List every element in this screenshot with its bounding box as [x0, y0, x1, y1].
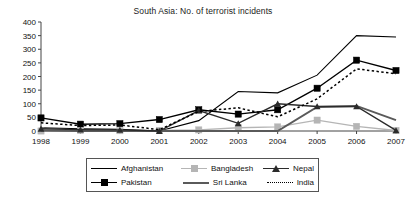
- legend-key-pakistan-icon: [91, 177, 117, 188]
- series-layer: [38, 36, 400, 134]
- svg-text:2003: 2003: [229, 137, 247, 146]
- legend-label-nepal: Nepal: [293, 164, 314, 173]
- legend-label-sri-lanka: Sri Lanka: [213, 178, 247, 187]
- legend-label-pakistan: Pakistan: [121, 178, 152, 187]
- legend-key-india-icon: [267, 177, 293, 188]
- svg-text:1999: 1999: [72, 137, 90, 146]
- legend-item-afghanistan: Afghanistan: [91, 163, 181, 174]
- legend-key-bangladesh-icon: [181, 163, 207, 174]
- svg-text:1998: 1998: [32, 137, 50, 146]
- svg-text:2001: 2001: [150, 137, 168, 146]
- svg-text:2005: 2005: [308, 137, 326, 146]
- legend-item-sri-lanka: Sri Lanka: [183, 177, 267, 188]
- legend-item-bangladesh: Bangladesh: [181, 163, 263, 174]
- legend-label-afghanistan: Afghanistan: [121, 164, 163, 173]
- svg-text:2006: 2006: [348, 137, 366, 146]
- svg-text:2002: 2002: [190, 137, 208, 146]
- svg-text:200: 200: [23, 73, 37, 82]
- svg-text:250: 250: [23, 59, 37, 68]
- svg-text:300: 300: [23, 45, 37, 54]
- svg-text:2000: 2000: [111, 137, 129, 146]
- legend-item-nepal: Nepal: [263, 163, 314, 174]
- svg-text:2004: 2004: [269, 137, 287, 146]
- svg-text:400: 400: [23, 18, 37, 27]
- svg-text:2007: 2007: [387, 137, 405, 146]
- svg-text:100: 100: [23, 100, 37, 109]
- legend-key-sri-lanka-icon: [183, 177, 209, 188]
- legend-item-india: India: [267, 177, 314, 188]
- svg-text:350: 350: [23, 32, 37, 41]
- legend-row: Pakistan Sri Lanka India: [91, 175, 314, 189]
- legend-label-bangladesh: Bangladesh: [211, 164, 253, 173]
- legend-label-india: India: [297, 178, 314, 187]
- chart-legend: Afghanistan Bangladesh Nepal: [86, 158, 319, 192]
- svg-text:150: 150: [23, 86, 37, 95]
- legend-key-nepal-icon: [263, 163, 289, 174]
- x-axis: 1998199920002001200220032004200520062007: [32, 131, 405, 146]
- legend-row: Afghanistan Bangladesh Nepal: [91, 161, 314, 175]
- legend-item-pakistan: Pakistan: [91, 177, 183, 188]
- svg-text:50: 50: [27, 113, 36, 122]
- chart-container: South Asia: No. of terrorist incidents 4…: [0, 0, 406, 205]
- svg-text:0: 0: [32, 127, 37, 136]
- legend-key-afghanistan-icon: [91, 163, 117, 174]
